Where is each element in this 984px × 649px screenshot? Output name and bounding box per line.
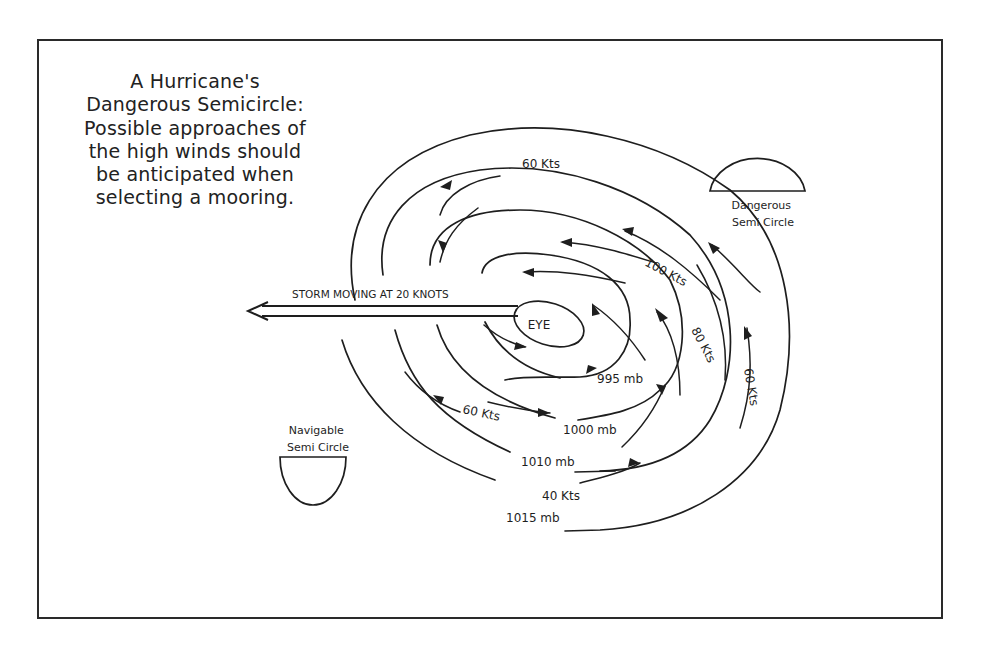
arrowhead (655, 308, 668, 322)
wind-arrow (622, 385, 665, 447)
wind-arrow (712, 245, 760, 292)
navigable-label-line: Navigable (289, 424, 344, 437)
dangerous-label-line: Semi Circle (732, 216, 794, 229)
isobar-label-1015: 1015 mb (506, 511, 560, 525)
navigable-semicircle-shape (280, 457, 346, 505)
storm-motion-label: STORM MOVING AT 20 KNOTS (292, 288, 449, 300)
hurricane-diagram: EYE STORM MOVING AT 20 KNOTS Dangerous S… (0, 0, 984, 649)
wind-label-60kts-lower-left: 60 Kts (461, 402, 501, 424)
isobar-1010-bottom (575, 471, 615, 472)
wind-label-100kts: 100 Kts (643, 255, 690, 289)
wind-arrow (405, 372, 460, 412)
arrowhead (514, 342, 527, 350)
navigable-semicircle-label: Navigable Semi Circle (287, 424, 349, 454)
wind-arrow (625, 231, 720, 300)
isobar-label-995: 995 mb (597, 372, 643, 386)
arrowhead (744, 326, 752, 340)
isobar-label-1010: 1010 mb (521, 455, 575, 469)
wind-label-60kts-right: 60 Kts (741, 367, 761, 407)
navigable-label-line: Semi Circle (287, 441, 349, 454)
wind-label-60kts-top: 60 Kts (522, 157, 560, 171)
arrowhead (440, 180, 452, 190)
dangerous-label-line: Dangerous (731, 199, 791, 212)
arrowhead (560, 238, 572, 247)
arrowhead (708, 242, 720, 254)
isobar-1015 (351, 128, 789, 531)
dangerous-semicircle-label: Dangerous Semi Circle (731, 199, 794, 229)
arrowhead (586, 365, 597, 374)
isobar-label-1000: 1000 mb (563, 423, 617, 437)
arrowhead (522, 268, 534, 277)
arrowhead (622, 227, 634, 236)
storm-motion-arrow (248, 302, 518, 320)
eye-label: EYE (528, 318, 551, 332)
isobar-1010-left (395, 330, 510, 452)
wind-label-80kts: 80 Kts (688, 325, 718, 365)
wind-arrow (593, 305, 645, 360)
wind-label-40kts: 40 Kts (542, 489, 580, 503)
